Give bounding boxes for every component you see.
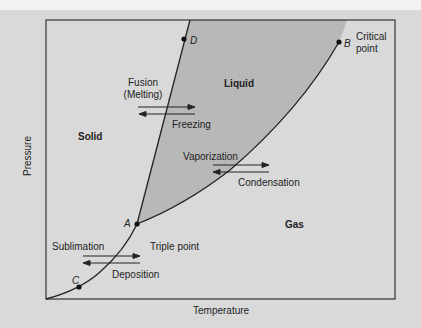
y-axis-label: Pressure bbox=[22, 136, 33, 176]
critical-point-caption-line2: point bbox=[356, 43, 378, 54]
critical-point-caption-line1: Critical bbox=[356, 31, 387, 42]
sublimation-arrows bbox=[83, 254, 140, 266]
condensation-label: Condensation bbox=[238, 177, 300, 188]
point-a-marker bbox=[134, 221, 139, 226]
region-label-liquid: Liquid bbox=[224, 78, 254, 89]
sublimation-label: Sublimation bbox=[52, 241, 104, 252]
point-b-marker bbox=[336, 39, 341, 44]
region-label-solid: Solid bbox=[78, 131, 102, 142]
triple-point-caption: Triple point bbox=[150, 241, 199, 252]
point-c-label: C bbox=[72, 275, 79, 286]
x-axis-label: Temperature bbox=[193, 305, 249, 316]
point-d-marker bbox=[181, 36, 186, 41]
point-b-label: B bbox=[344, 38, 351, 49]
liquid-region bbox=[137, 20, 347, 224]
vaporization-label: Vaporization bbox=[183, 151, 238, 162]
melting-label: (Melting) bbox=[113, 89, 173, 100]
sublimation-curve bbox=[46, 224, 137, 299]
region-label-gas: Gas bbox=[285, 219, 304, 230]
fusion-label: Fusion bbox=[118, 77, 168, 88]
deposition-label: Deposition bbox=[112, 269, 159, 280]
point-d-label: D bbox=[190, 35, 197, 46]
point-a-label: A bbox=[124, 218, 131, 229]
freezing-label: Freezing bbox=[172, 119, 211, 130]
